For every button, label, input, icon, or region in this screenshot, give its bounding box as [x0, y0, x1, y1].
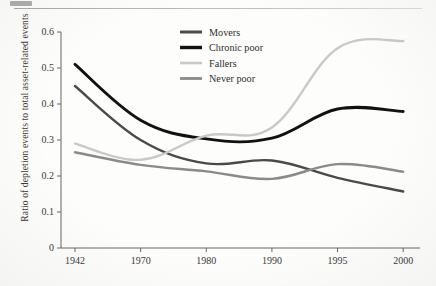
x-tick-label: 1990	[262, 255, 282, 266]
x-tick-label: 1995	[328, 255, 348, 266]
y-tick-label: 0.1	[42, 206, 55, 217]
y-tick-label: 0.5	[42, 62, 55, 73]
y-tick-label: 0.6	[42, 26, 55, 37]
legend-label-movers: Movers	[209, 27, 240, 38]
series-line-never-poor	[75, 152, 403, 179]
y-tick-label: 0.3	[42, 134, 55, 145]
x-tick-label: 1942	[65, 255, 85, 266]
y-tick-label: 0	[49, 242, 54, 253]
legend-label-chronic-poor: Chronic poor	[209, 42, 264, 53]
x-tick-label: 2000	[393, 255, 413, 266]
y-tick-label: 0.4	[42, 98, 55, 109]
legend-label-fallers: Fallers	[209, 58, 237, 69]
x-tick-label: 1970	[131, 255, 151, 266]
y-tick-label: 0.2	[42, 170, 55, 181]
line-chart: 00.10.20.30.40.50.6194219701980199019952…	[0, 0, 436, 286]
figure-page: Ratio of depletion events to total asset…	[0, 0, 436, 286]
x-tick-label: 1980	[196, 255, 216, 266]
legend-label-never-poor: Never poor	[209, 73, 256, 84]
